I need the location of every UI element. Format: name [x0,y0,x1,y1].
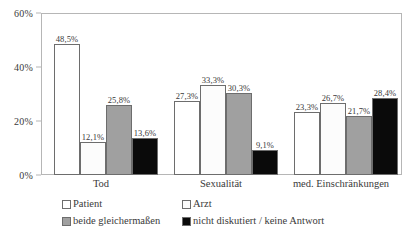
bar-value-label: 33,3% [202,75,224,85]
bar-group-med-einschraenkungen: 23,3% 26,7% 21,7% 28,4% [281,13,401,175]
x-category-label-sexualitaet: Sexualität [200,178,242,189]
bar-value-label: 26,7% [322,93,344,103]
bar-med-patient: 23,3% [294,112,320,175]
legend-swatch-icon-beide [62,217,71,226]
legend-swatch-icon-nicht-diskutiert [182,217,191,226]
x-category-label-tod: Tod [93,178,109,189]
legend-item-patient: Patient [62,199,102,210]
legend: Patient Arzt beide gleichermaßen nicht d… [36,199,408,235]
legend-swatch-icon-arzt [182,200,191,209]
bar-med-arzt: 26,7% [320,103,346,175]
x-axis-labels: Tod Sexualität med. Einschränkungen [41,178,402,194]
bar-sexualitaet-nicht-diskutiert: 9,1% [252,150,278,175]
bar-tod-nicht-diskutiert: 13,6% [132,138,158,175]
y-tick-label-40: 40% [14,61,33,72]
legend-item-arzt: Arzt [182,199,212,210]
legend-swatch-icon-patient [62,200,71,209]
bar-group-tod: 48,5% 12,1% 25,8% 13,6% [41,13,161,175]
x-category-label-med-einschraenkungen: med. Einschränkungen [293,178,389,189]
bar-value-label: 12,1% [82,132,104,142]
bar-value-label: 27,3% [176,91,198,101]
bar-med-nicht-diskutiert: 28,4% [372,98,398,175]
bar-tod-patient: 48,5% [54,44,80,175]
bar-tod-beide: 25,8% [106,105,132,175]
y-tick-label-20: 20% [14,116,33,127]
bar-value-label: 25,8% [108,95,130,105]
bar-sexualitaet-beide: 30,3% [226,93,252,175]
y-tick-label-0: 0% [19,170,33,181]
bar-sexualitaet-patient: 27,3% [174,101,200,175]
bar-value-label: 21,7% [348,106,370,116]
bar-value-label: 48,5% [56,34,78,44]
legend-label: Arzt [193,199,212,210]
bar-value-label: 9,1% [256,140,274,150]
bar-value-label: 30,3% [228,83,250,93]
y-axis: 60% 40% 20% 0% [0,13,37,175]
bar-value-label: 28,4% [374,88,396,98]
legend-label: nicht diskutiert / keine Antwort [193,216,324,227]
y-tick-label-60: 60% [14,8,33,19]
bar-sexualitaet-arzt: 33,3% [200,85,226,175]
legend-label: Patient [73,199,102,210]
bar-value-label: 23,3% [296,102,318,112]
legend-label: beide gleichermaßen [73,216,160,227]
bar-value-label: 13,6% [134,128,156,138]
bar-group-sexualitaet: 27,3% 33,3% 30,3% 9,1% [161,13,281,175]
bars-layer: 48,5% 12,1% 25,8% 13,6% 27,3% 33,3% 30,3… [41,13,402,175]
bar-chart: 60% 40% 20% 0% 48,5% 12,1% 25,8% 13,6% [0,0,416,240]
legend-item-beide-gleichermassen: beide gleichermaßen [62,216,160,227]
bar-tod-arzt: 12,1% [80,142,106,175]
legend-item-nicht-diskutiert: nicht diskutiert / keine Antwort [182,216,324,227]
bar-med-beide: 21,7% [346,116,372,175]
